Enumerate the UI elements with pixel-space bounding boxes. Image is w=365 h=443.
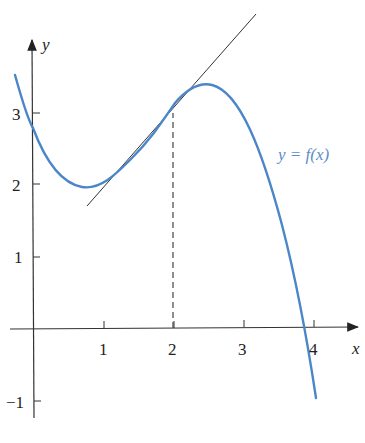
x-tick-label-2: 2	[168, 341, 177, 358]
y-axis-label: y	[42, 36, 50, 53]
x-tick-label-4: 4	[309, 341, 318, 358]
y-tick-label-neg1: −1	[6, 394, 24, 411]
x-ticks	[104, 320, 314, 328]
y-axis	[32, 40, 34, 418]
x-axis-label: x	[352, 340, 360, 357]
x-tick-label-1: 1	[99, 341, 108, 358]
x-axis	[10, 327, 358, 329]
x-tick-label-3: 3	[238, 341, 247, 358]
y-tick-label-3: 3	[12, 106, 21, 123]
y-tick-label-2: 2	[12, 177, 21, 194]
function-curve	[15, 75, 316, 398]
y-tick-label-1: 1	[14, 249, 23, 266]
chart-canvas	[0, 0, 365, 443]
curve-label: y = f(x)	[278, 146, 329, 163]
